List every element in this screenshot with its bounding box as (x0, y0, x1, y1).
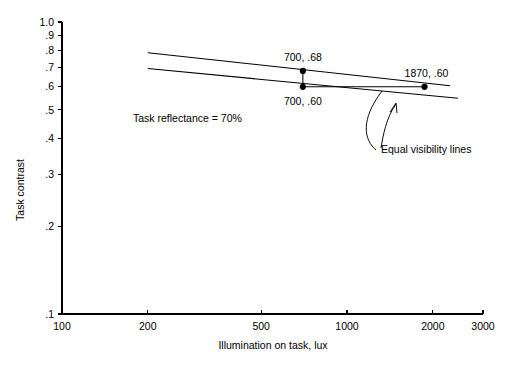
data-point-marker (300, 84, 306, 90)
data-point-marker (300, 68, 306, 74)
equal-visibility-label: Equal visibility lines (381, 143, 471, 155)
leader-line-lower (381, 104, 396, 148)
y-tick-label: .8 (45, 44, 54, 56)
x-axis: 100200500100020003000 (53, 310, 495, 332)
y-tick-label: .3 (45, 168, 54, 180)
y-tick-label: 1.0 (39, 16, 54, 28)
x-tick-label: 2000 (421, 320, 445, 332)
x-axis-title: Illumination on task, lux (218, 339, 328, 351)
x-tick-label: 500 (252, 320, 270, 332)
y-tick-label: .6 (45, 80, 54, 92)
task-contrast-vs-illumination-chart: 1.0.9.8.7.6.5.4.3.2.1 100200500100020003… (0, 0, 513, 372)
x-tick-label: 1000 (335, 320, 359, 332)
x-tick-label: 200 (139, 320, 157, 332)
data-points-group: 700, .68700, .601870, .60 (284, 51, 449, 107)
leader-line-group (366, 91, 397, 150)
data-point-label: 1870, .60 (405, 67, 449, 79)
y-tick-label: .5 (45, 104, 54, 116)
chart-figure: 1.0.9.8.7.6.5.4.3.2.1 100200500100020003… (0, 0, 513, 372)
y-tick-label: .9 (45, 29, 54, 41)
data-point-label: 700, .68 (284, 51, 322, 63)
leader-line-upper (366, 91, 382, 150)
y-tick-label: .4 (45, 132, 54, 144)
data-point-marker (421, 84, 427, 90)
y-axis: 1.0.9.8.7.6.5.4.3.2.1 (39, 16, 62, 320)
annotation-group: Task reflectance = 70%Equal visibility l… (133, 112, 471, 155)
y-tick-label: .1 (45, 308, 54, 320)
y-axis-title: Task contrast (14, 159, 26, 221)
data-point-label: 700, .60 (284, 95, 322, 107)
y-tick-label: .7 (45, 61, 54, 73)
x-tick-label: 100 (53, 320, 71, 332)
x-tick-label: 3000 (471, 320, 495, 332)
task-reflectance-note: Task reflectance = 70% (133, 112, 242, 124)
y-tick-label: .2 (45, 220, 54, 232)
